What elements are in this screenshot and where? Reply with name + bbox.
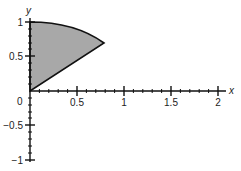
- y-tick-label: 1: [17, 17, 23, 28]
- y-tick-label: 0.5: [9, 51, 23, 62]
- x-tick-label: 1: [121, 97, 127, 108]
- y-tick-label: −0.5: [3, 120, 23, 131]
- chart: x y 0 0.5 1 1.5 2 1 0.5 −0.5 −1: [0, 0, 241, 171]
- y-tick-label: −1: [12, 155, 24, 166]
- x-tick-label: 0.5: [70, 97, 84, 108]
- x-axis-label: x: [228, 85, 235, 96]
- x-tick-label: 1.5: [164, 97, 178, 108]
- x-tick-label: 2: [215, 97, 221, 108]
- y-axis-label: y: [25, 5, 32, 16]
- origin-label: 0: [17, 96, 23, 107]
- shaded-region: [30, 22, 104, 91]
